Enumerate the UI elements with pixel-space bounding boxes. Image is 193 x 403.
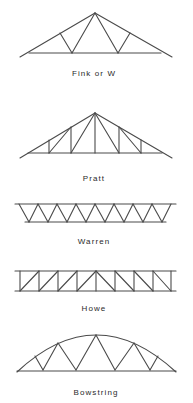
web-diagonal	[57, 204, 67, 222]
web-diagonal	[67, 204, 76, 222]
truss-types-diagram: Fink or W Pratt Warren Howe Bowstring	[0, 0, 193, 403]
web-diagonal	[133, 204, 143, 222]
web-diagonal	[38, 204, 48, 222]
truss-member	[118, 33, 130, 53]
web-diagonal	[114, 204, 124, 222]
web-diagonal	[162, 204, 171, 222]
web-diagonal	[105, 204, 114, 222]
web-diagonal	[134, 271, 153, 291]
warren-truss-label: Warren	[78, 237, 111, 246]
web-diagonal	[150, 356, 158, 370]
web-diagonal	[48, 204, 57, 222]
web-diagonal	[96, 335, 115, 370]
truss-member	[20, 113, 95, 158]
web-diagonal	[124, 204, 133, 222]
truss-member	[119, 127, 141, 153]
web-diagonal	[76, 335, 96, 370]
web-diagonal	[29, 204, 38, 222]
truss-member	[95, 113, 119, 153]
web-diagonal	[58, 343, 76, 370]
truss-member	[72, 13, 95, 53]
web-diagonal	[115, 271, 134, 291]
web-diagonal	[143, 204, 152, 222]
truss-member	[60, 33, 72, 53]
truss-member	[95, 113, 172, 158]
web-diagonal	[39, 271, 58, 291]
truss-member	[95, 13, 172, 57]
fink-truss	[20, 13, 172, 57]
howe-truss	[15, 271, 176, 291]
truss-member	[49, 127, 71, 153]
bowstring-truss-label: Bowstring	[73, 388, 118, 397]
truss-member	[20, 13, 95, 57]
fink-truss-label: Fink or W	[72, 69, 116, 78]
web-diagonal	[96, 271, 115, 291]
web-diagonal	[86, 204, 95, 222]
web-diagonal	[20, 271, 39, 291]
bowstring-truss	[17, 335, 176, 372]
pratt-truss	[20, 113, 172, 158]
web-diagonal	[153, 271, 171, 291]
web-diagonal	[58, 271, 77, 291]
web-diagonal	[19, 204, 29, 222]
pratt-truss-label: Pratt	[83, 174, 105, 183]
web-diagonal	[115, 343, 134, 370]
web-diagonal	[77, 271, 96, 291]
web-diagonal	[152, 204, 162, 222]
web-diagonal	[95, 204, 105, 222]
web-diagonal	[76, 204, 86, 222]
truss-member	[71, 113, 95, 153]
warren-truss	[15, 204, 176, 222]
web-diagonal	[35, 356, 43, 370]
howe-truss-label: Howe	[82, 304, 107, 313]
